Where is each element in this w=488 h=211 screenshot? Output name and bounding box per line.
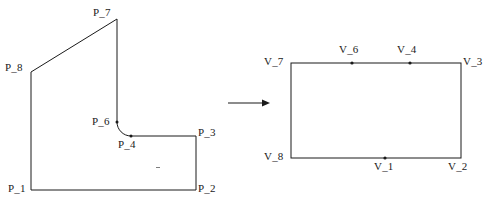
vertex-dot-v6 (350, 61, 353, 64)
label-v7: V_7 (264, 56, 284, 67)
maps-to-arrow (228, 100, 270, 107)
target-rectangle-group (291, 61, 461, 159)
label-p1: P_1 (8, 183, 26, 194)
source-polygon-outline (31, 19, 196, 190)
label-v2: V_2 (448, 161, 468, 172)
arrow-head (262, 100, 270, 107)
label-p7: P_7 (93, 7, 111, 18)
source-polygon-group (31, 19, 196, 190)
stray-speck (156, 167, 160, 168)
label-p2: P_2 (198, 183, 216, 194)
label-v8: V_8 (264, 151, 284, 162)
vertex-dot-p6 (116, 121, 119, 124)
target-rectangle-outline (291, 63, 461, 158)
label-v4: V_4 (397, 44, 417, 55)
vertex-dot-v4 (408, 61, 411, 64)
label-p3: P_3 (198, 127, 216, 138)
label-v6: V_6 (339, 44, 359, 55)
label-p8: P_8 (5, 62, 23, 73)
figure-root: P_1 P_2 P_3 P_4 P_6 P_7 P_8 V_7 V_6 V_4 … (0, 0, 488, 211)
label-v3: V_3 (463, 56, 483, 67)
label-p4: P_4 (118, 139, 136, 150)
label-p6: P_6 (92, 116, 110, 127)
figure-canvas (0, 0, 488, 211)
label-v1: V_1 (374, 161, 394, 172)
